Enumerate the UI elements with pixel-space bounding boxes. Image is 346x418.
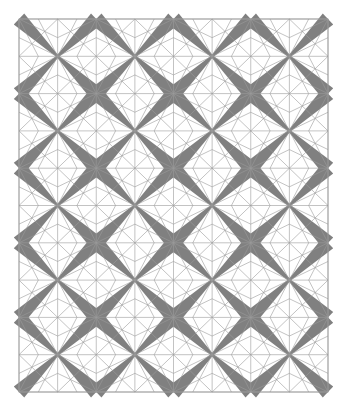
geometric-pattern [0,0,346,418]
fan-lines [19,19,328,392]
